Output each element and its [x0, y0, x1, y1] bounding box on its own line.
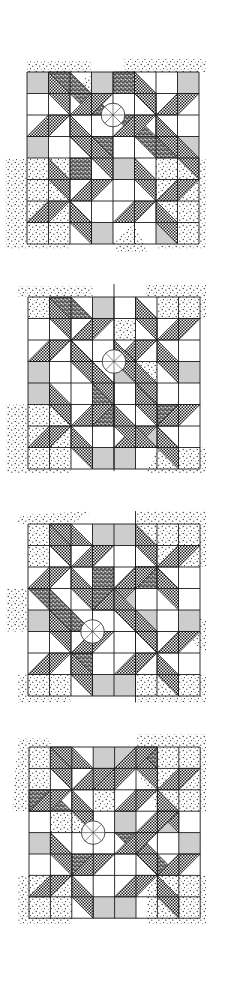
gray-square: [179, 362, 201, 384]
gray-square: [179, 610, 201, 632]
gray-square: [115, 811, 136, 832]
gray-square: [28, 610, 50, 632]
gray-square: [93, 897, 114, 918]
stipple-region: [28, 297, 50, 319]
gray-square: [179, 833, 200, 854]
gray-square: [114, 524, 136, 546]
quilt-figure: [0, 0, 225, 982]
stipple-region: [114, 319, 136, 341]
gray-square: [93, 297, 115, 319]
stipple-region: [7, 589, 29, 632]
panels-container: [6, 59, 207, 925]
gray-square: [93, 675, 115, 697]
gray-square: [29, 833, 50, 854]
quilt-panel-1: [6, 59, 206, 253]
circle-motif-icon: [81, 821, 105, 845]
gray-square: [93, 524, 115, 546]
stipple-region: [124, 59, 206, 72]
gray-square: [92, 223, 114, 245]
stipple-region: [17, 286, 92, 297]
circle-motif-icon: [101, 103, 125, 127]
circle-motif-icon: [102, 350, 126, 374]
gray-square: [27, 72, 49, 94]
gray-square: [27, 137, 49, 159]
gray-square: [114, 448, 136, 470]
stipple-region: [17, 675, 71, 703]
circle-motif-icon: [81, 620, 105, 644]
gray-square: [114, 675, 136, 697]
gray-square: [28, 362, 50, 384]
quilt-panel-3: [7, 511, 207, 702]
gray-square: [178, 72, 200, 94]
gray-square: [115, 897, 136, 918]
stipple-region: [17, 511, 92, 524]
quilt-panel-4: [12, 734, 207, 924]
stipple-region: [27, 61, 92, 72]
gray-square: [113, 158, 135, 180]
gray-square: [93, 747, 114, 768]
gray-square: [28, 383, 50, 405]
gray-square: [92, 72, 114, 94]
gray-square: [93, 448, 115, 470]
dark-stipple-band: [70, 158, 92, 180]
dark-stipple-band: [113, 72, 135, 94]
quilt-panel-2: [7, 284, 207, 473]
